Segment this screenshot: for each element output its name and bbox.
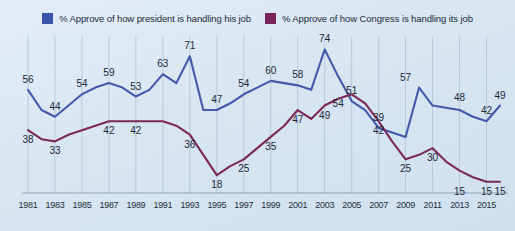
data-labels-group: 5644545953637147546058745139574842493833… (22, 33, 506, 196)
x-tick-label: 1987 (100, 200, 119, 210)
congress-data-label: 15 (481, 186, 493, 197)
president-data-label: 44 (49, 101, 61, 112)
line-chart-svg: 5644545953637147546058745139574842493833… (0, 30, 515, 231)
x-tick-label: 2015 (477, 200, 496, 210)
president-data-label: 57 (400, 72, 412, 83)
congress-data-label: 38 (22, 134, 34, 145)
congress-data-label: 15 (454, 186, 466, 197)
president-data-label: 51 (346, 85, 358, 96)
president-data-label: 54 (238, 78, 250, 89)
x-tick-labels-group: 1981198319851987198919911993199519971999… (19, 200, 497, 210)
x-tick-label: 2005 (342, 200, 361, 210)
congress-data-label: 42 (373, 125, 385, 136)
congress-data-label: 42 (130, 125, 142, 136)
x-tick-label: 1989 (126, 200, 145, 210)
x-tick-label: 1981 (19, 200, 38, 210)
congress-data-label: 33 (49, 145, 61, 156)
president-data-label: 49 (494, 90, 506, 101)
president-data-label: 39 (373, 112, 385, 123)
congress-data-label: 35 (265, 141, 277, 152)
blue-square-icon (42, 13, 53, 24)
congress-data-label: 18 (211, 179, 223, 190)
congress-data-label: 49 (319, 110, 331, 121)
x-tick-label: 1985 (73, 200, 92, 210)
president-data-label: 74 (319, 33, 331, 44)
x-tick-label: 2013 (450, 200, 469, 210)
x-tick-label: 2011 (423, 200, 441, 210)
legend-item-president[interactable]: % Approve of how president is handling h… (42, 13, 251, 24)
x-tick-label: 1999 (261, 200, 280, 210)
president-data-label: 58 (292, 69, 304, 80)
president-data-label: 56 (22, 74, 34, 85)
president-data-label: 63 (157, 58, 169, 69)
x-tick-label: 2007 (369, 200, 388, 210)
congress-data-label: 42 (103, 125, 115, 136)
x-tick-label: 1995 (207, 200, 226, 210)
chart-legend: % Approve of how president is handling h… (0, 8, 515, 28)
president-data-label: 48 (454, 92, 466, 103)
x-tick-label: 1997 (234, 200, 253, 210)
chart-plot-area: 5644545953637147546058745139574842493833… (0, 30, 515, 231)
legend-item-congress[interactable]: % Approve of how Congress is handling it… (265, 13, 473, 24)
legend-label-congress: % Approve of how Congress is handling it… (282, 13, 473, 24)
congress-data-label: 30 (427, 152, 439, 163)
legend-label-president: % Approve of how president is handling h… (59, 13, 251, 24)
x-tick-label: 1983 (46, 200, 65, 210)
president-data-label: 47 (211, 94, 223, 105)
president-data-label: 42 (481, 105, 493, 116)
gridlines-group (28, 36, 487, 193)
congress-data-label: 15 (494, 186, 506, 197)
president-data-label: 54 (76, 78, 88, 89)
x-tick-label: 2009 (396, 200, 415, 210)
x-tick-label: 2001 (288, 200, 307, 210)
purple-square-icon (265, 13, 276, 24)
x-tick-label: 1993 (180, 200, 199, 210)
congress-line (28, 94, 500, 181)
chart-root: % Approve of how president is handling h… (0, 0, 515, 231)
congress-data-label: 47 (292, 114, 304, 125)
x-tick-label: 2003 (315, 200, 334, 210)
congress-data-label: 36 (184, 139, 196, 150)
congress-data-label: 54 (333, 98, 345, 109)
congress-data-label: 25 (238, 163, 250, 174)
president-data-label: 59 (103, 67, 115, 78)
president-data-label: 60 (265, 65, 277, 76)
president-data-label: 71 (184, 40, 196, 51)
congress-data-label: 25 (400, 163, 412, 174)
president-data-label: 53 (130, 81, 142, 92)
x-tick-label: 1991 (153, 200, 172, 210)
